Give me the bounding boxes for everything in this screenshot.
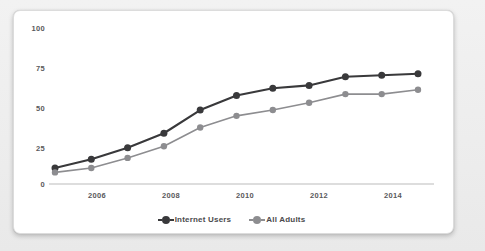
data-point-marker[interactable] — [306, 100, 312, 106]
data-point-marker[interactable] — [269, 85, 276, 92]
series-line — [55, 74, 418, 168]
data-point-marker[interactable] — [52, 169, 58, 175]
data-point-marker[interactable] — [161, 143, 167, 149]
y-tick-label-50: 50 — [19, 104, 45, 113]
series-line — [55, 90, 418, 173]
legend-marker-icon — [162, 216, 170, 224]
legend-label: Internet Users — [175, 215, 232, 224]
x-tick-label-2010: 2010 — [225, 191, 265, 200]
data-point-marker[interactable] — [124, 144, 131, 151]
chart-series-all-adults — [52, 87, 421, 176]
y-tick-label-25: 25 — [19, 144, 45, 153]
legend-marker-icon — [253, 216, 261, 224]
data-point-marker[interactable] — [415, 87, 421, 93]
data-point-marker[interactable] — [379, 91, 385, 97]
x-tick-label-2008: 2008 — [151, 191, 191, 200]
legend-label: All Adults — [266, 215, 305, 224]
data-point-marker[interactable] — [378, 72, 385, 79]
chart-series-internet-users — [52, 70, 422, 171]
x-tick-label-2012: 2012 — [299, 191, 339, 200]
y-tick-label-0: 0 — [19, 180, 45, 189]
chart-legend: Internet Users All Adults — [14, 215, 453, 224]
data-point-marker[interactable] — [233, 92, 240, 99]
x-tick-label-2014: 2014 — [373, 191, 413, 200]
data-point-marker[interactable] — [88, 156, 95, 163]
data-point-marker[interactable] — [342, 73, 349, 80]
data-point-marker[interactable] — [306, 82, 313, 89]
data-point-marker[interactable] — [197, 124, 203, 130]
data-point-marker[interactable] — [342, 91, 348, 97]
data-point-marker[interactable] — [88, 165, 94, 171]
data-point-marker[interactable] — [124, 155, 130, 161]
y-tick-label-75: 75 — [19, 64, 45, 73]
data-point-marker[interactable] — [233, 113, 239, 119]
data-point-marker[interactable] — [270, 107, 276, 113]
x-tick-label-2006: 2006 — [77, 191, 117, 200]
data-point-marker[interactable] — [197, 107, 204, 114]
chart-card: 100 75 50 25 0 2006 2008 2010 2012 2014 … — [13, 10, 454, 234]
screenshot-root: 100 75 50 25 0 2006 2008 2010 2012 2014 … — [0, 0, 485, 251]
data-point-marker[interactable] — [415, 70, 422, 77]
data-point-marker[interactable] — [160, 130, 167, 137]
legend-item-all-adults[interactable]: All Adults — [253, 215, 305, 224]
y-tick-label-100: 100 — [19, 24, 45, 33]
legend-item-internet-users[interactable]: Internet Users — [162, 215, 232, 224]
